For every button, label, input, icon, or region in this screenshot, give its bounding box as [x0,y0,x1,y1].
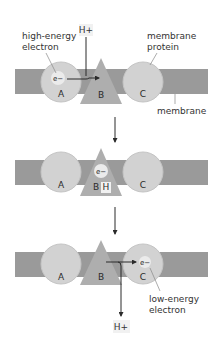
low-energy-electron-label-line2: electron [149,305,186,315]
proton-in-label: H+ [79,25,93,35]
protein-b-label: B [98,90,104,100]
low-energy-electron-label-line1: low-energy [149,294,200,304]
membrane-protein-leader [150,53,157,65]
membrane-label: membrane [157,106,207,116]
panel-step-3: A B e− C H+ low-energy electron [15,240,208,333]
electron-label: e− [140,259,150,267]
electron-transport-diagram: e− A B C H+ high-energy electron membran… [0,0,221,349]
protein-b-label: B [98,272,104,282]
electron-label: e− [53,75,63,83]
protein-a-label: A [58,272,65,282]
panel-step-1: e− A B C H+ high-energy electron membran… [15,24,208,116]
bound-proton-label: H [103,182,110,192]
membrane-protein-label-line1: membrane [147,31,197,41]
proton-out-label: H+ [114,322,128,332]
protein-b-label: B [93,182,99,192]
high-energy-electron-label-line1: high-energy [22,31,77,41]
membrane-protein-label-line2: protein [147,42,179,52]
protein-a-label: A [58,180,65,190]
high-energy-electron-label-line2: electron [22,42,59,52]
protein-c-label: C [140,89,146,99]
protein-c-label: C [140,272,146,282]
protein-a-label: A [58,89,65,99]
protein-c-label: C [140,180,146,190]
electron-label: e− [96,168,106,176]
panel-step-2: A e− B H C [15,148,208,196]
